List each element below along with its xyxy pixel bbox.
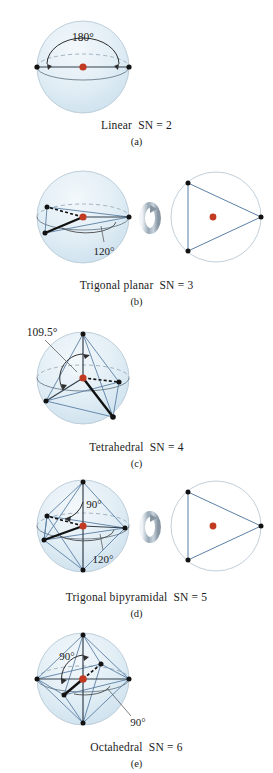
panel-letter: (b): [0, 296, 273, 308]
central-atom: [79, 675, 87, 683]
geometry-name: Tetrahedral: [89, 441, 143, 453]
steric-number: SN = 2: [138, 119, 172, 131]
vertex-atom: [259, 215, 264, 220]
panel-letter: (a): [0, 136, 273, 148]
vertex-atom: [81, 480, 86, 485]
panel-trigonal-planar-caption: Trigonal planarSN = 3: [0, 278, 273, 292]
vertex-atom: [34, 64, 39, 69]
panel-trigonal-planar-art: 120°: [0, 160, 273, 278]
panel-letter: (d): [0, 608, 273, 620]
vertex-atom: [42, 538, 47, 543]
panel-letter: (e): [0, 758, 273, 770]
vertex-atom: [110, 414, 116, 420]
steric-number: SN = 4: [150, 441, 184, 453]
vertex-atom: [62, 693, 67, 698]
panel-linear-caption: LinearSN = 2: [0, 118, 273, 132]
vertex-atom: [117, 380, 122, 385]
panel-trigonal-bipyramidal-art: 90° 120°: [0, 468, 273, 590]
central-atom: [210, 214, 217, 221]
panel-trigonal-planar: 120° Trigonal planarSN = 3 (b): [0, 160, 273, 308]
steric-number: SN = 6: [149, 741, 183, 753]
rotate-arrow-icon: [142, 514, 158, 540]
rotate-arrow-icon: [142, 205, 158, 231]
central-atom: [79, 213, 86, 220]
vertex-atom: [186, 558, 191, 563]
vertex-atom: [99, 662, 104, 667]
geometry-name: Octahedral: [90, 741, 142, 753]
vertex-atom: [81, 721, 86, 726]
vertex-atom: [186, 181, 191, 186]
panel-trigonal-bipyramidal: 90° 120° Trigonal bipyramidalSN = 5 (d): [0, 468, 273, 620]
vertex-atom: [259, 524, 264, 529]
vertex-atom: [35, 677, 40, 682]
central-atom: [79, 522, 86, 529]
angle-label-120: 120°: [93, 553, 114, 565]
vertex-atom: [81, 633, 86, 638]
steric-number: SN = 3: [159, 279, 193, 291]
panel-tetrahedral-art: 109.5°: [0, 312, 273, 440]
panel-tetrahedral: 109.5° TetrahedralSN = 4 (c): [0, 312, 273, 470]
panel-tetrahedral-caption: TetrahedralSN = 4: [0, 440, 273, 454]
central-atom: [79, 374, 86, 381]
panel-octahedral-art: 90° 90°: [0, 622, 273, 740]
vertex-atom: [81, 332, 86, 337]
geometry-name: Linear: [101, 119, 132, 131]
panel-octahedral-caption: OctahedralSN = 6: [0, 740, 273, 754]
vertex-atom: [43, 231, 48, 236]
angle-label-180: 180°: [72, 31, 94, 43]
vertex-atom: [45, 205, 50, 210]
vertex-atom: [127, 215, 132, 220]
vertex-atom: [127, 677, 132, 682]
angle-label-109-5: 109.5°: [27, 326, 58, 338]
vertex-atom: [126, 64, 131, 69]
angle-label-120: 120°: [94, 245, 115, 257]
vertex-atom: [123, 526, 128, 531]
geometry-name: Trigonal bipyramidal: [66, 591, 168, 603]
panel-linear-art: 180°: [0, 0, 273, 118]
angle-label-90-lower: 90°: [130, 716, 145, 728]
vertex-atom: [45, 514, 50, 519]
vertex-atom: [186, 249, 191, 254]
central-atom: [79, 63, 86, 70]
panel-octahedral: 90° 90° OctahedralSN = 6 (e): [0, 622, 273, 770]
panel-trigonal-bipyramidal-caption: Trigonal bipyramidalSN = 5: [0, 590, 273, 604]
vertex-atom: [81, 568, 86, 573]
geometry-name: Trigonal planar: [80, 279, 154, 291]
vertex-atom: [44, 399, 49, 404]
central-atom: [210, 523, 217, 530]
vertex-atom: [186, 490, 191, 495]
vsepr-geometry-figure: 180° LinearSN = 2 (a): [0, 0, 273, 773]
panel-linear: 180° LinearSN = 2 (a): [0, 0, 273, 148]
steric-number: SN = 5: [173, 591, 207, 603]
angle-label-90: 90°: [86, 498, 101, 510]
angle-label-90-upper: 90°: [59, 650, 74, 662]
